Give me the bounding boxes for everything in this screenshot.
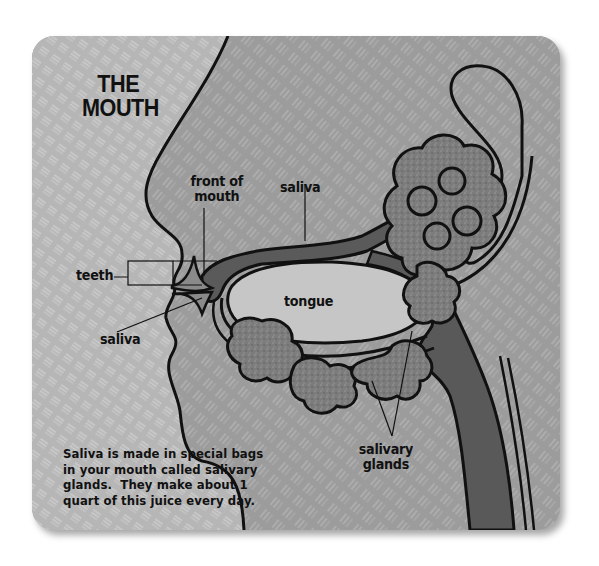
- label-salivary-glands: salivary glands: [359, 442, 413, 472]
- title-line-1: THE: [82, 72, 159, 96]
- diagram-title: THE MOUTH: [82, 72, 159, 120]
- label-saliva-bottom: saliva: [100, 332, 140, 347]
- caption-line: in your mouth called salivary: [63, 462, 270, 478]
- caption-line: quart of this juice every day.: [63, 493, 270, 509]
- label-saliva-top: saliva: [280, 180, 320, 195]
- label-front-of-mouth-line1: front of: [191, 174, 243, 189]
- label-front-of-mouth: front of mouth: [191, 174, 243, 204]
- caption-text: Saliva is made in special bags in your m…: [63, 446, 270, 508]
- caption-line: glands. They make about 1: [63, 477, 270, 493]
- diagram-card: THE MOUTH front of mouth saliva teeth to…: [32, 36, 560, 530]
- label-teeth: teeth: [76, 268, 113, 283]
- caption-line: Saliva is made in special bags: [63, 446, 270, 462]
- label-front-of-mouth-line2: mouth: [191, 189, 243, 204]
- title-line-2: MOUTH: [82, 96, 159, 120]
- label-salivary-glands-line1: salivary: [359, 442, 413, 457]
- label-salivary-glands-line2: glands: [359, 457, 413, 472]
- label-tongue: tongue: [284, 294, 333, 309]
